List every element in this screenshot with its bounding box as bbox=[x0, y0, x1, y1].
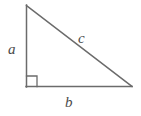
right-angle-marker-icon bbox=[27, 76, 38, 87]
side-label-c: c bbox=[78, 31, 85, 46]
triangle-outline bbox=[26, 5, 132, 87]
side-label-a: a bbox=[8, 42, 16, 57]
right-triangle-figure: a c b bbox=[0, 0, 141, 116]
hypotenuse-side-c bbox=[27, 6, 133, 87]
side-label-b: b bbox=[65, 95, 73, 110]
